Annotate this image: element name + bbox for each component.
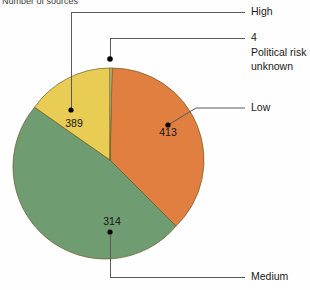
callout-label-political-risk-line1: Political risk	[251, 46, 307, 58]
callout-label-low: Low	[251, 101, 271, 113]
value-label-high: 389	[65, 117, 83, 129]
callout-label-medium: Medium	[251, 270, 289, 282]
value-label-medium: 314	[103, 215, 121, 227]
leader-dot-low	[165, 122, 170, 127]
leader-line-political-risk-unknown	[110, 38, 245, 59]
leader-dot-high	[68, 107, 73, 112]
callout-value-political-risk-unknown: 4	[251, 31, 257, 43]
callout-label-high: High	[251, 5, 273, 17]
chart-title: Number of sources	[2, 0, 79, 6]
callout-label-political-risk-line2: unknown	[251, 60, 293, 72]
chart-container: Number of sources 413 314 389 High 4 Pol…	[0, 0, 310, 290]
leader-dot-political-risk-unknown	[107, 56, 113, 62]
leader-dot-medium	[107, 229, 112, 234]
pie-chart-figure: Number of sources 413 314 389 High 4 Pol…	[0, 0, 310, 290]
